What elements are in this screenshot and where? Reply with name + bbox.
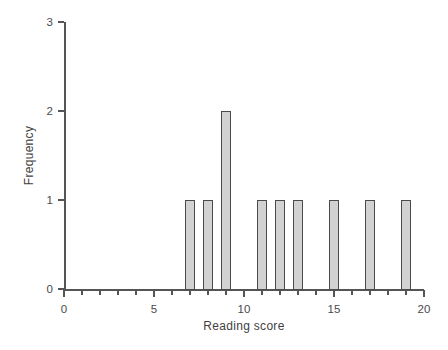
x-tick-major (423, 290, 424, 297)
x-tick-minor (117, 290, 118, 295)
y-axis-line (64, 22, 66, 289)
y-axis-title: Frequency (18, 22, 40, 289)
x-tick-label: 20 (417, 303, 430, 315)
x-tick-minor (171, 290, 172, 295)
histogram-bar (257, 200, 268, 290)
histogram-bar (185, 200, 196, 290)
plot-area: 05101520 0123 (64, 22, 424, 289)
y-tick-major (58, 199, 65, 200)
x-tick-label: 10 (237, 303, 250, 315)
x-tick-minor (225, 290, 226, 295)
x-tick-minor (387, 290, 388, 295)
histogram-figure: 05101520 0123 Reading score Frequency (0, 0, 448, 350)
y-tick-label: 3 (47, 16, 53, 28)
y-tick-label: 2 (47, 105, 53, 117)
x-tick-minor (351, 290, 352, 295)
y-tick-label: 1 (47, 194, 53, 206)
x-tick-minor (99, 290, 100, 295)
x-tick-minor (297, 290, 298, 295)
x-tick-minor (135, 290, 136, 295)
x-tick-minor (81, 290, 82, 295)
y-tick-major (58, 110, 65, 111)
x-tick-minor (279, 290, 280, 295)
histogram-bar (401, 200, 412, 290)
x-tick-major (153, 290, 154, 297)
y-tick-major (58, 288, 65, 289)
y-tick-major (58, 21, 65, 22)
x-tick-minor (315, 290, 316, 295)
x-tick-label: 15 (327, 303, 340, 315)
x-tick-minor (189, 290, 190, 295)
histogram-bar (365, 200, 376, 290)
histogram-bar (203, 200, 214, 290)
y-tick-label: 0 (47, 283, 53, 295)
histogram-bar (329, 200, 340, 290)
x-tick-major (63, 290, 64, 297)
histogram-bar (221, 111, 232, 290)
histogram-bar (293, 200, 304, 290)
x-tick-minor (207, 290, 208, 295)
x-tick-major (243, 290, 244, 297)
x-tick-minor (405, 290, 406, 295)
x-tick-minor (369, 290, 370, 295)
x-tick-minor (261, 290, 262, 295)
x-tick-label: 0 (61, 303, 68, 315)
x-axis-title: Reading score (64, 319, 424, 333)
histogram-bar (275, 200, 286, 290)
x-tick-major (333, 290, 334, 297)
x-tick-label: 5 (151, 303, 158, 315)
